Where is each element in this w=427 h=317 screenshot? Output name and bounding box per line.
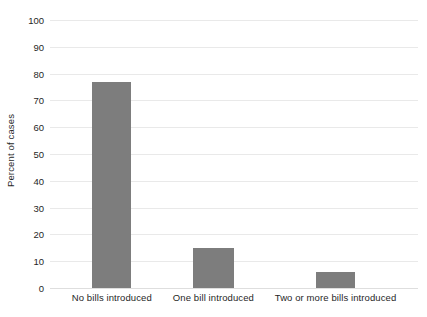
gridline-0 — [50, 288, 418, 289]
x-tick-label-1: One bill introduced — [173, 292, 254, 303]
y-tick-label-30: 30 — [4, 202, 44, 213]
gridline-80 — [50, 74, 418, 75]
bar-2[interactable] — [316, 272, 355, 288]
y-tick-label-60: 60 — [4, 122, 44, 133]
y-tick-label-50: 50 — [4, 149, 44, 160]
x-tick-label-2: Two or more bills introduced — [275, 292, 397, 303]
y-axis-tick-labels: 1009080706050403020100 — [0, 20, 44, 288]
x-axis-tick-labels: No bills introducedOne bill introducedTw… — [50, 292, 418, 312]
y-tick-label-80: 80 — [4, 68, 44, 79]
x-tick-label-0: No bills introduced — [72, 292, 152, 303]
y-tick-label-100: 100 — [4, 15, 44, 26]
bar-0[interactable] — [92, 82, 131, 288]
y-tick-label-40: 40 — [4, 175, 44, 186]
y-tick-label-20: 20 — [4, 229, 44, 240]
bar-1[interactable] — [193, 248, 234, 288]
y-tick-label-10: 10 — [4, 256, 44, 267]
y-tick-label-0: 0 — [4, 283, 44, 294]
bar-chart: Percent of cases 1009080706050403020100 … — [0, 0, 427, 317]
gridline-90 — [50, 47, 418, 48]
y-tick-label-90: 90 — [4, 41, 44, 52]
y-tick-label-70: 70 — [4, 95, 44, 106]
gridline-100 — [50, 20, 418, 21]
plot-area — [50, 20, 418, 288]
